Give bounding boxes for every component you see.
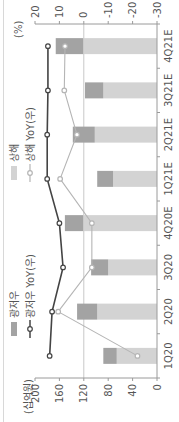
bar-guangzhou — [103, 348, 116, 364]
legend-label-shanghai-yoy: 상해 YoY(우) — [24, 107, 36, 162]
marker-guangzhou-yoy — [50, 309, 55, 314]
bars — [56, 38, 157, 364]
bar-shanghai — [113, 171, 157, 187]
right-axis-unit: (%) — [13, 21, 24, 38]
marker-guangzhou-yoy — [61, 265, 66, 270]
marker-guangzhou-yoy — [47, 354, 52, 359]
marker-shanghai-yoy — [56, 309, 61, 314]
marker-shanghai-yoy — [75, 132, 80, 137]
left-axis-tick-label: 0 — [152, 384, 163, 390]
marker-shanghai-yoy — [58, 177, 63, 182]
x-axis-label: 1Q21E — [163, 162, 174, 195]
legend-label-guangzhou: 광저우 — [9, 291, 20, 318]
left-axis-tick-label: 40 — [127, 384, 138, 397]
marker-shanghai-yoy — [63, 44, 68, 49]
left-axis-tick-label: 80 — [103, 384, 114, 397]
bar-guangzhou — [77, 304, 97, 320]
x-axis-label: 3Q21E — [163, 74, 174, 107]
x-axis-label: 2Q21E — [163, 118, 174, 151]
left-axis-tick-label: 160 — [54, 384, 65, 403]
x-axis-label: 4Q20E — [163, 206, 174, 239]
bar-guangzhou — [65, 215, 83, 231]
marker-shanghai-yoy — [62, 88, 67, 93]
marker-shanghai-yoy — [135, 354, 140, 359]
x-axis-label: 1Q20 — [163, 342, 174, 369]
right-axis-tick-label: 0 — [78, 12, 89, 18]
bar-guangzhou — [56, 38, 83, 54]
axes: 1Q202Q203Q204Q20E1Q21E2Q21E3Q21E4Q21E040… — [30, 2, 175, 403]
bar-shanghai — [95, 127, 157, 143]
right-axis-tick-label: 10 — [54, 5, 65, 18]
marker-guangzhou-yoy — [46, 88, 51, 93]
marker-shanghai-yoy — [90, 221, 95, 226]
bar-shanghai — [103, 82, 157, 98]
bar-shanghai — [108, 259, 157, 275]
marker-guangzhou-yoy — [45, 132, 50, 137]
marker-guangzhou-yoy — [45, 177, 50, 182]
legend-swatch-guangzhou — [11, 322, 17, 336]
left-axis-tick-label: 120 — [78, 384, 89, 403]
chart-frame: 1Q202Q203Q204Q20E1Q21E2Q21E3Q21E4Q21E040… — [0, 0, 179, 422]
legend-marker-guangzhou-yoy — [28, 327, 33, 332]
left-axis-unit: (십억원) — [23, 379, 34, 414]
right-axis-tick-label: -10 — [103, 2, 114, 18]
right-axis-tick-label: -30 — [152, 2, 163, 18]
legend-marker-shanghai-yoy — [28, 171, 33, 176]
x-axis-label: 2Q20 — [163, 298, 174, 325]
right-axis-tick-label: 20 — [30, 5, 41, 18]
legend-swatch-shanghai — [11, 166, 17, 180]
marker-guangzhou-yoy — [46, 44, 51, 49]
x-axis-label: 3Q20 — [163, 254, 174, 281]
marker-guangzhou-yoy — [57, 221, 62, 226]
legend-label-shanghai: 상해 — [8, 144, 20, 162]
right-axis-tick-label: -20 — [127, 2, 138, 18]
bar-guangzhou — [85, 82, 103, 98]
legend: 광저우 광저우 YoY(우) 상해 상해 YoY(우) — [8, 107, 36, 338]
bar-shanghai — [97, 304, 157, 320]
marker-shanghai-yoy — [90, 265, 95, 270]
x-axis-label: 4Q21E — [163, 29, 174, 62]
legend-label-guangzhou-yoy: 광저우 YoY(우) — [25, 254, 36, 318]
chart-canvas: 1Q202Q203Q204Q20E1Q21E2Q21E3Q21E4Q21E040… — [0, 0, 179, 422]
bar-guangzhou — [97, 171, 113, 187]
bar-shanghai — [83, 38, 157, 54]
